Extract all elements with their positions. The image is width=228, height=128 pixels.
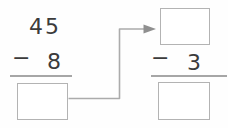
left-minus-sign: − <box>12 47 30 69</box>
left-answer-rule-line <box>10 75 72 77</box>
right-answer-box[interactable] <box>158 82 210 120</box>
arrowhead-icon <box>144 25 157 34</box>
left-minuend-tens-digit: 4 <box>29 16 43 38</box>
worksheet-canvas: 4 5 − 8 − 3 <box>0 0 228 128</box>
left-answer-box[interactable] <box>17 83 68 120</box>
left-minuend-ones-digit: 5 <box>45 16 59 38</box>
carry-arrow-line <box>69 29 147 99</box>
right-minuend-box[interactable] <box>160 8 210 45</box>
right-answer-rule-line <box>151 75 227 77</box>
right-subtrahend-digit: 3 <box>187 52 201 74</box>
right-minus-sign: − <box>151 47 169 69</box>
left-subtrahend-digit: 8 <box>47 51 61 73</box>
